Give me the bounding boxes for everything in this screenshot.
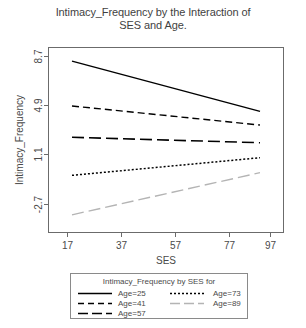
series-line-age-89 — [72, 173, 260, 215]
legend-label-age-25: Age=25 — [118, 289, 146, 298]
legend-label-age-89: Age=89 — [213, 299, 241, 308]
y-axis-label: Intimacy_Frequency — [14, 95, 25, 185]
legend-label-age-41: Age=41 — [118, 299, 146, 308]
legend-label-age-73: Age=73 — [213, 289, 241, 298]
x-axis-ticks — [68, 233, 271, 238]
x-tick-label: 97 — [265, 240, 277, 251]
legend-column-left: Age=25 Age=41 Age=57 — [78, 289, 146, 318]
legend-column-right: Age=73 Age=89 — [170, 289, 241, 308]
y-tick-label: 4.9 — [33, 98, 44, 112]
x-tick-label: 57 — [170, 240, 182, 251]
x-tick-label: 37 — [116, 240, 128, 251]
series-line-age-25 — [72, 61, 260, 111]
x-tick-label: 77 — [224, 240, 236, 251]
series-line-age-73 — [72, 158, 260, 176]
chart-svg: 8.7 4.9 1.1 -2.7 Intimacy_Frequency 17 3… — [0, 0, 306, 328]
y-axis-tick-labels: 8.7 4.9 1.1 -2.7 — [33, 49, 44, 213]
y-tick-label: -2.7 — [33, 195, 44, 213]
data-series-group — [72, 61, 260, 215]
y-tick-label: 1.1 — [33, 147, 44, 161]
x-axis-label: SES — [156, 255, 176, 266]
chart-container: Intimacy_Frequency by the Interaction of… — [0, 0, 306, 328]
legend-title: Intimacy_Frequency by SES for — [103, 277, 216, 286]
y-axis-ticks — [44, 57, 49, 205]
y-tick-label: 8.7 — [33, 49, 44, 63]
x-axis-tick-labels: 17 37 57 77 97 — [62, 240, 277, 251]
series-line-age-41 — [72, 106, 260, 125]
series-line-age-57 — [72, 137, 260, 142]
x-tick-label: 17 — [62, 240, 74, 251]
legend-label-age-57: Age=57 — [118, 309, 146, 318]
